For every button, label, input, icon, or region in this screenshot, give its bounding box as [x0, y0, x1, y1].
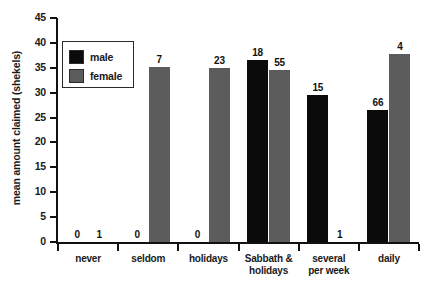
y-axis-tick-label: 5: [0, 210, 46, 222]
y-axis-tick: [50, 141, 57, 143]
y-axis-tick-label: 20: [0, 135, 46, 147]
y-axis-tick-label: 15: [0, 160, 46, 172]
y-axis-tick: [50, 117, 57, 119]
y-axis-tick: [50, 216, 57, 218]
legend-label-male: male: [90, 51, 113, 63]
y-axis-tick: [50, 191, 57, 193]
bar-sample-size-label: 66: [367, 97, 388, 108]
y-axis-tick-label: 40: [0, 36, 46, 48]
x-axis-category-label-line: per week: [284, 265, 374, 277]
x-axis-tick: [358, 244, 360, 251]
x-axis-category-label-line: daily: [344, 253, 429, 265]
y-axis-title: mean amount claimed (shekels): [10, 28, 22, 228]
bar-sample-size-label: 0: [67, 229, 88, 240]
bar-sample-size-label: 4: [389, 41, 410, 52]
bar-sample-size-label: 15: [307, 82, 328, 93]
bar-chart: mean amount claimed (shekels) 4540353025…: [0, 0, 429, 288]
bar-sample-size-label: 23: [209, 55, 230, 66]
y-axis-tick-label: 25: [0, 111, 46, 123]
y-axis-tick: [50, 166, 57, 168]
bar-sample-size-label: 18: [247, 47, 268, 58]
y-axis-tick-label: 45: [0, 11, 46, 23]
bar-female-daily: [389, 54, 410, 242]
legend-label-female: female: [90, 70, 122, 82]
bar-female-holidays: [209, 68, 230, 242]
x-axis-tick: [177, 244, 179, 251]
x-axis-tick: [57, 244, 59, 251]
bar-male-sabbath-holidays: [247, 60, 268, 242]
legend-item-female: female: [69, 66, 128, 85]
legend-swatch-male-icon: [69, 50, 84, 64]
x-axis-tick: [117, 244, 119, 251]
y-axis-tick-label: 30: [0, 86, 46, 98]
bar-sample-size-label: 7: [149, 54, 170, 65]
bar-male-several-per-week: [307, 95, 328, 242]
bar-male-daily: [367, 110, 388, 242]
bar-sample-size-label: 55: [269, 57, 290, 68]
bar-sample-size-label: 1: [89, 229, 110, 240]
y-axis-tick: [50, 92, 57, 94]
x-axis-tick: [298, 244, 300, 251]
x-axis-tick: [418, 244, 420, 251]
x-axis-category-label: daily: [344, 253, 429, 265]
y-axis-tick-label: 35: [0, 61, 46, 73]
bar-female-sabbath-holidays: [269, 70, 290, 242]
y-axis-tick: [50, 17, 57, 19]
y-axis-tick-label: 0: [0, 235, 46, 247]
bar-sample-size-label: 0: [127, 229, 148, 240]
x-axis-tick: [238, 244, 240, 251]
chart-legend: male female: [62, 41, 134, 88]
legend-item-male: male: [69, 47, 128, 66]
y-axis-tick: [50, 241, 57, 243]
bar-sample-size-label: 1: [329, 229, 350, 240]
y-axis-tick-label: 10: [0, 185, 46, 197]
bar-female-seldom: [149, 67, 170, 242]
y-axis-tick: [50, 67, 57, 69]
y-axis-tick: [50, 42, 57, 44]
bar-sample-size-label: 0: [187, 229, 208, 240]
legend-swatch-female-icon: [69, 69, 84, 83]
